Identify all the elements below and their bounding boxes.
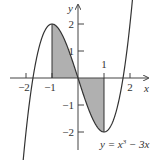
graph-figure: −2−11221−1−2 y x y = x3 − 3x [0,0,157,160]
y-tick-label: −1 [62,99,74,111]
x-tick-label: 1 [101,58,107,70]
y-axis-label: y [67,2,73,14]
x-tick-label: −2 [18,81,30,93]
function-label: y = x3 − 3x [99,138,150,150]
y-tick-label: 2 [69,18,75,30]
x-tick-label: −1 [44,81,56,93]
x-axis-label: x [143,82,149,94]
y-tick-label: −2 [62,126,74,138]
x-tick-label: 2 [127,81,133,93]
